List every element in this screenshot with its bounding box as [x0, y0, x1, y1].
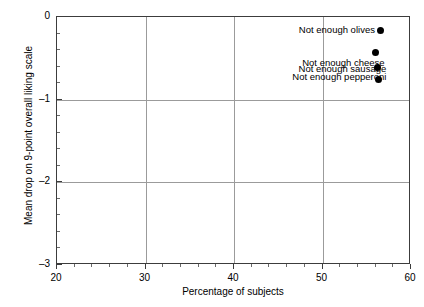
- x-tick-minor: [304, 264, 305, 267]
- y-tick-major: [57, 99, 62, 100]
- x-tick-label: 30: [125, 273, 165, 283]
- data-point-marker: [372, 49, 379, 56]
- x-tick-label: 60: [390, 273, 424, 283]
- x-tick-minor: [180, 264, 181, 267]
- x-tick-minor: [339, 264, 340, 267]
- y-tick-minor: [57, 115, 60, 116]
- x-tick-minor: [268, 264, 269, 267]
- gridline-horizontal: [57, 182, 409, 183]
- x-axis-label: Percentage of subjects: [56, 286, 410, 297]
- data-point-label: Not enough pepperoni: [292, 72, 386, 82]
- y-tick-label: –1: [26, 94, 50, 104]
- y-tick-minor: [57, 33, 60, 34]
- y-tick-label: –3: [26, 259, 50, 269]
- x-tick-minor: [375, 264, 376, 267]
- y-tick-minor: [57, 214, 60, 215]
- cropped-chart-title: [0, 0, 424, 4]
- y-tick-label: 0: [26, 11, 50, 21]
- y-tick-minor: [57, 165, 60, 166]
- x-tick-major: [410, 264, 411, 269]
- y-tick-minor: [57, 198, 60, 199]
- gridline-vertical: [234, 17, 235, 263]
- y-tick-minor: [57, 49, 60, 50]
- y-tick-minor: [57, 82, 60, 83]
- x-tick-minor: [198, 264, 199, 267]
- x-tick-label: 20: [36, 273, 76, 283]
- y-tick-minor: [57, 231, 60, 232]
- y-tick-major: [57, 16, 62, 17]
- x-tick-major: [56, 264, 57, 269]
- x-tick-minor: [215, 264, 216, 267]
- gridline-horizontal: [57, 100, 409, 101]
- y-tick-major: [57, 181, 62, 182]
- y-tick-major: [57, 264, 62, 265]
- y-tick-minor: [57, 247, 60, 248]
- y-axis-label: Mean drop on 9-point overall liking scal…: [23, 26, 34, 246]
- x-tick-major: [322, 264, 323, 269]
- gridline-vertical: [146, 17, 147, 263]
- data-point-marker: [377, 27, 384, 34]
- data-point-label: Not enough cheese: [302, 58, 384, 68]
- x-tick-minor: [74, 264, 75, 267]
- x-tick-minor: [357, 264, 358, 267]
- scatter-plot-figure: Not enough sausageNot enough pepperoniNo…: [0, 0, 424, 307]
- x-tick-label: 40: [213, 273, 253, 283]
- x-tick-major: [233, 264, 234, 269]
- x-tick-minor: [286, 264, 287, 267]
- x-tick-minor: [162, 264, 163, 267]
- x-tick-minor: [392, 264, 393, 267]
- x-tick-minor: [109, 264, 110, 267]
- gridline-vertical: [323, 17, 324, 263]
- x-tick-minor: [127, 264, 128, 267]
- y-tick-minor: [57, 148, 60, 149]
- x-tick-minor: [251, 264, 252, 267]
- y-tick-label: –2: [26, 176, 50, 186]
- y-tick-minor: [57, 66, 60, 67]
- data-point-label: Not enough olives: [299, 25, 375, 35]
- y-tick-minor: [57, 132, 60, 133]
- plot-area: Not enough sausageNot enough pepperoniNo…: [56, 16, 410, 264]
- x-tick-minor: [91, 264, 92, 267]
- x-tick-label: 50: [302, 273, 342, 283]
- x-tick-major: [145, 264, 146, 269]
